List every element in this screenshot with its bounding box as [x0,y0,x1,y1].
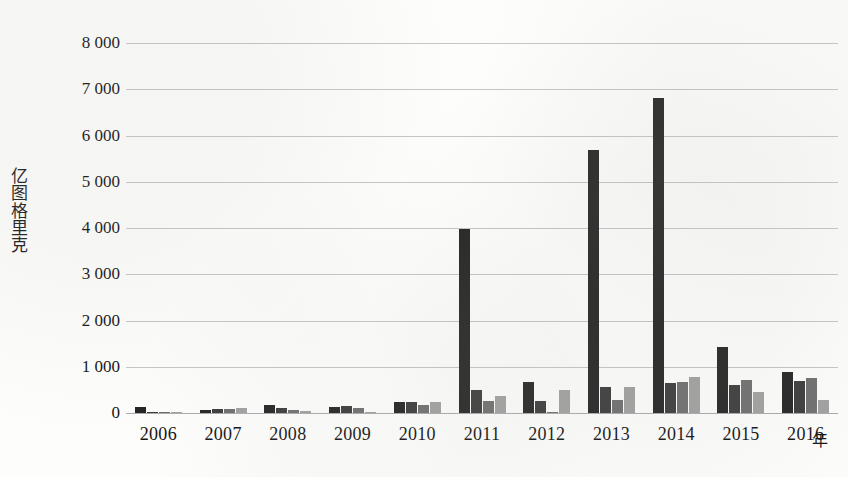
bar-group [255,43,320,413]
bar [329,407,340,413]
y-axis-tick-label: 3 000 [42,264,120,284]
x-axis-tick-label: 2013 [579,424,644,454]
bar [159,412,170,413]
y-axis-tick-label: 4 000 [42,218,120,238]
x-axis-tick-label: 2008 [255,424,320,454]
bar [753,392,764,413]
y-axis-title: 亿 图 格 里 克 [6,168,32,255]
bar [418,405,429,413]
bar [653,98,664,413]
bar [559,390,570,413]
bar [365,412,376,413]
bar-group [320,43,385,413]
bar-group [773,43,838,413]
bar [547,412,558,413]
bar [341,406,352,413]
y-axis-title-char-3: 里 [6,220,32,237]
bar [430,402,441,413]
chart-page: 亿 图 格 里 克 01 0002 0003 0004 0005 0006 00… [0,0,848,477]
bar [782,372,793,413]
bar [212,409,223,413]
bar-group [450,43,515,413]
bar [353,408,364,413]
x-axis-tick-label: 2011 [450,424,515,454]
bar [588,150,599,413]
bar-group [644,43,709,413]
y-axis-title-char-4: 克 [6,237,32,254]
x-axis-tick-label: 2009 [320,424,385,454]
bar [624,387,635,413]
bar [741,380,752,413]
bar [794,381,805,413]
x-axis-tick-label: 2006 [126,424,191,454]
y-axis-tick-label: 5 000 [42,172,120,192]
bar-group [191,43,256,413]
bar [483,401,494,413]
bar [523,382,534,413]
bar [200,410,211,413]
bar [300,411,311,413]
bar [394,402,405,413]
y-axis-title-char-1: 图 [6,185,32,202]
bar [689,377,700,413]
bar [236,408,247,413]
x-axis-tick-label: 2007 [191,424,256,454]
x-axis-tick-label: 2016 [773,424,838,454]
bar [665,383,676,413]
bar [612,400,623,413]
plot-area [126,43,838,413]
bar [495,396,506,413]
bar [459,229,470,413]
bar [806,378,817,413]
bar-group [385,43,450,413]
bar [535,401,546,413]
y-axis-tick-label: 2 000 [42,311,120,331]
y-axis-title-char-0: 亿 [6,168,32,185]
y-axis-tick-labels: 01 0002 0003 0004 0005 0006 0007 0008 00… [30,0,120,477]
bar [276,408,287,413]
x-axis-tick-label: 2012 [514,424,579,454]
bar [135,407,146,413]
x-axis-tick-label: 2010 [385,424,450,454]
bar-groups [126,43,838,413]
bar-group [126,43,191,413]
x-axis-unit-label: 年 [812,427,828,451]
y-axis-tick-label: 1 000 [42,357,120,377]
bar-group [709,43,774,413]
bar [406,402,417,413]
bar [729,385,740,413]
y-axis-title-char-2: 格 [6,203,32,220]
y-axis-tick-label: 7 000 [42,79,120,99]
y-axis-tick-label: 8 000 [42,33,120,53]
bar [471,390,482,413]
axis-line-zero [126,413,838,414]
bar [717,347,728,413]
x-axis-tick-labels: 2006200720082009201020112012201320142015… [126,424,838,454]
bar [677,382,688,413]
bar [264,405,275,413]
x-axis-tick-label: 2015 [709,424,774,454]
bar [288,410,299,413]
x-axis-tick-label: 2014 [644,424,709,454]
bar [147,412,158,413]
y-axis-tick-label: 6 000 [42,126,120,146]
bar-group [579,43,644,413]
y-axis-tick-label: 0 [42,403,120,423]
bar [171,412,182,413]
bar [818,400,829,413]
bar-group [514,43,579,413]
bar [600,387,611,413]
bar [224,409,235,413]
